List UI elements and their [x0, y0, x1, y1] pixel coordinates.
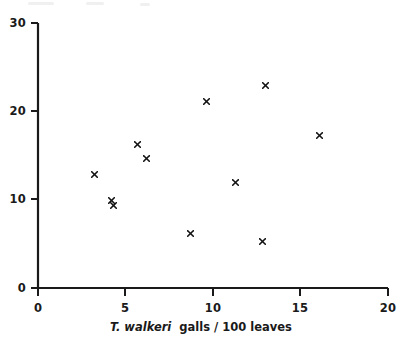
x-tick-label-0: 0	[26, 301, 50, 315]
data-point	[143, 155, 150, 162]
data-point	[203, 98, 210, 105]
scatter-plot-figure: 30 20 10 0 0 5 10 15 20 T. walkeri galls…	[0, 0, 402, 348]
y-tick-label-10: 10	[4, 192, 26, 206]
data-point	[262, 82, 269, 89]
x-tick-label-15: 15	[288, 301, 312, 315]
y-tick-label-20: 20	[4, 104, 26, 118]
x-tick-label-5: 5	[113, 301, 137, 315]
data-point	[316, 132, 323, 139]
data-point	[134, 141, 141, 148]
x-tick-label-10: 10	[201, 301, 225, 315]
y-tick-label-0: 0	[4, 281, 26, 295]
x-axis-title: T. walkeri galls / 100 leaves	[0, 320, 402, 334]
x-tick-label-20: 20	[376, 301, 400, 315]
y-tick-label-30: 30	[4, 16, 26, 30]
data-point	[187, 230, 194, 237]
x-axis-title-rest: galls / 100 leaves	[179, 320, 292, 334]
data-point	[232, 179, 239, 186]
data-point	[91, 171, 98, 178]
x-axis-title-species: T. walkeri	[110, 320, 171, 334]
data-point	[259, 238, 266, 245]
data-point	[110, 202, 117, 209]
plot-axes	[0, 0, 402, 348]
